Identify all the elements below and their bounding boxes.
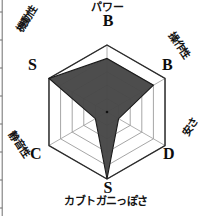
axis-grade-power: B bbox=[96, 13, 120, 29]
axis-grade-cheapness: D bbox=[163, 146, 175, 162]
plot-frame-left-axis bbox=[0, 0, 4, 216]
axis-label-crabness: カブトガニっぽさ bbox=[44, 196, 168, 208]
radar-center-point bbox=[106, 111, 109, 114]
axis-grade-mobility: S bbox=[28, 57, 37, 73]
radar-chart: パワー B 操作性 B 安さ D S カブトガニっぽさ 静音性 C 機動性 S bbox=[0, 0, 209, 216]
axis-grade-quietness: C bbox=[30, 146, 42, 162]
axis-grade-control: B bbox=[162, 57, 173, 73]
axis-grade-crabness: S bbox=[96, 180, 120, 196]
